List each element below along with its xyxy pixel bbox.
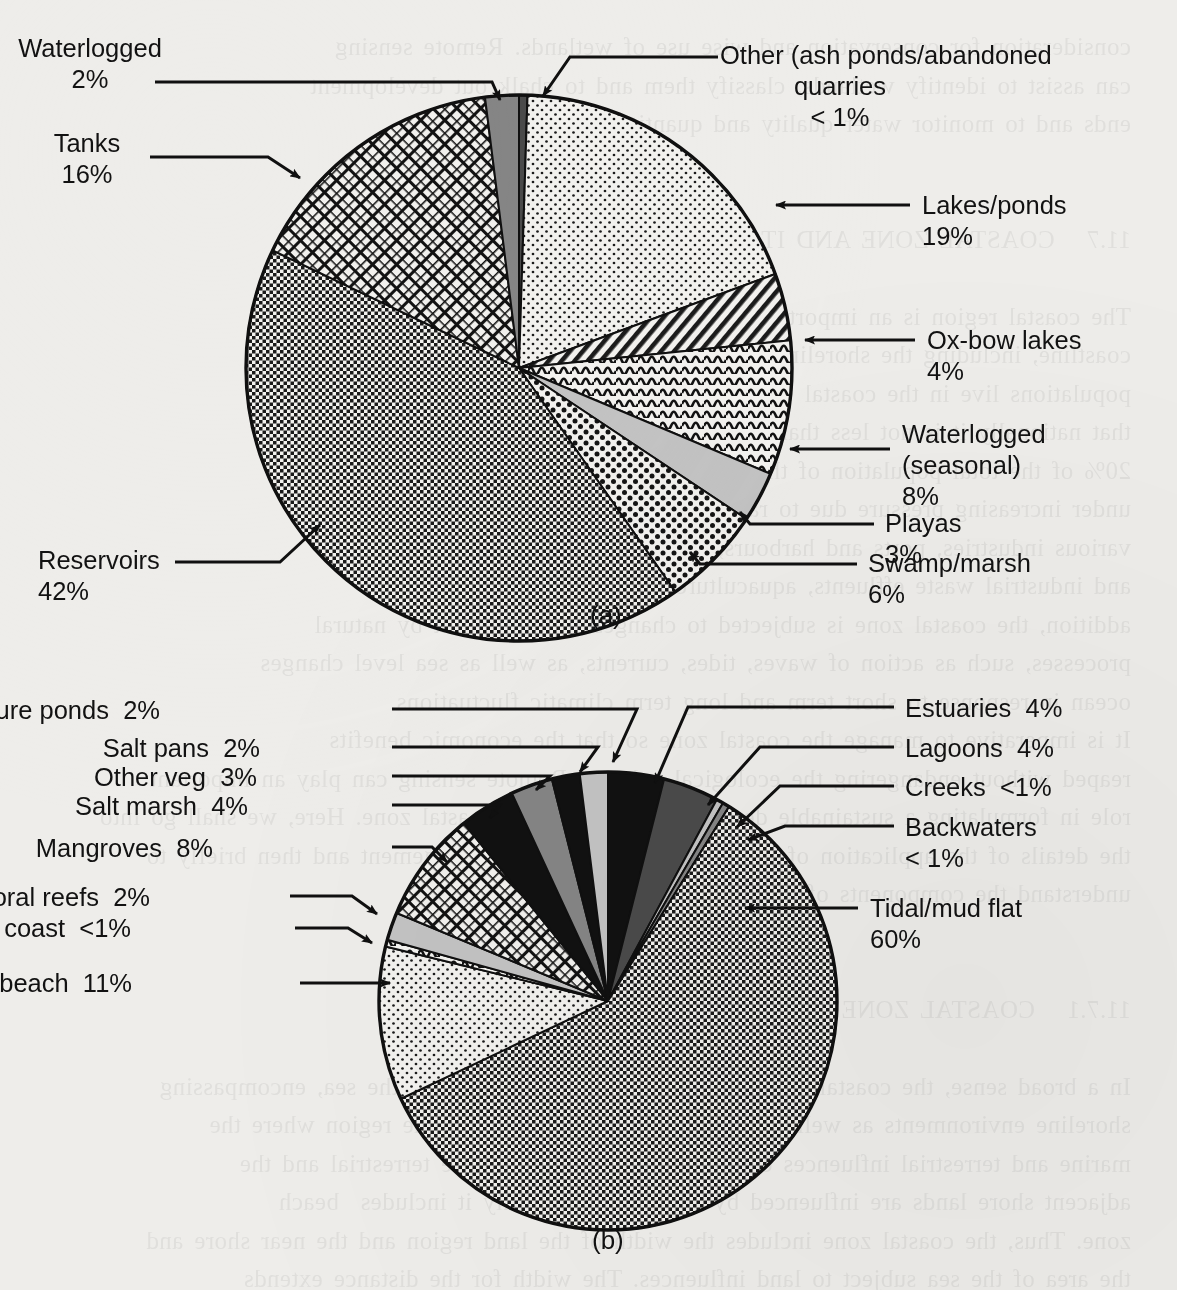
slice-label-salt-pans: Salt pans 2% [103,733,260,764]
chart-a-slices [246,95,792,641]
label-line: 19% [922,221,1067,252]
slice-label-ox-bow-lakes: Ox-bow lakes4% [927,325,1081,387]
label-line: Coral reefs 2% [0,882,150,913]
label-leader-line [740,512,874,524]
label-line: 2% [0,64,210,95]
label-line: Creeks <1% [905,772,1052,803]
label-leader-line [290,896,377,914]
label-line: < 1% [905,843,1037,874]
label-line: quarries [720,71,960,102]
figure-page: consideration for conservation and wise … [0,0,1177,1290]
panel-tag-a: (a) [590,600,622,631]
slice-label-tidal-mud-flat: Tidal/mud flat60% [870,893,1022,955]
slice-label-sand-beach: Sand/beach 11% [0,968,132,999]
label-line: < 1% [720,102,960,133]
slice-label-aquaculture-ponds: Aquaculture ponds 2% [0,695,160,726]
slice-label-reservoirs: Reservoirs42% [38,545,160,607]
label-line: (seasonal) [902,450,1046,481]
slice-label-salt-marsh: Salt marsh 4% [75,791,248,822]
label-line: Estuaries 4% [905,693,1062,724]
slice-label-swamp-marsh: Swamp/marsh6% [868,548,1031,610]
label-line: Tanks [0,128,207,159]
label-line: Salt pans 2% [103,733,260,764]
label-line: Playas [885,508,962,539]
label-line: Waterlogged [0,33,210,64]
slice-label-creeks: Creeks <1% [905,772,1052,803]
label-line: Backwaters [905,812,1037,843]
label-line: Mangroves 8% [36,833,213,864]
label-line: Aquaculture ponds 2% [0,695,160,726]
chart-b-slices [379,772,837,1230]
label-line: 42% [38,576,160,607]
label-line: Swamp/marsh [868,548,1031,579]
label-line: 6% [868,579,1031,610]
label-leader-line [543,57,718,96]
label-line: Reservoirs [38,545,160,576]
label-line: 60% [870,924,1022,955]
slice-label-lakes-ponds: Lakes/ponds19% [922,190,1067,252]
label-line: Other veg 3% [94,762,257,793]
label-line: 16% [0,159,207,190]
label-line: Lagoons 4% [905,733,1054,764]
slice-label-backwaters: Backwaters< 1% [905,812,1037,874]
label-line: Salt marsh 4% [75,791,248,822]
slice-label-other-ash-ponds: Other (ash ponds/abandonedquarries< 1% [720,40,960,133]
slice-label-other-veg: Other veg 3% [94,762,257,793]
label-line: Sand/beach 11% [0,968,132,999]
slice-label-rocky-coast: Rocky coast <1% [0,913,131,944]
label-leader-line [737,786,894,827]
label-line: Ox-bow lakes [927,325,1081,356]
slice-label-waterlogged: Waterlogged2% [0,33,210,95]
label-line: Lakes/ponds [922,190,1067,221]
slice-label-lagoons: Lagoons 4% [905,733,1054,764]
slice-label-mangroves: Mangroves 8% [36,833,213,864]
panel-tag-b: (b) [592,1225,624,1256]
label-line: 4% [927,356,1081,387]
label-leader-line [392,709,637,762]
label-leader-line [655,707,894,783]
label-leader-line [392,747,598,772]
slice-label-estuaries: Estuaries 4% [905,693,1062,724]
label-line: Tidal/mud flat [870,893,1022,924]
label-line: Other (ash ponds/abandoned [720,40,960,71]
label-leader-line [295,928,372,943]
slice-label-tanks: Tanks16% [0,128,207,190]
slice-label-waterlogged-seasonal: Waterlogged(seasonal)8% [902,419,1046,512]
label-line: Rocky coast <1% [0,913,131,944]
slice-label-coral-reefs: Coral reefs 2% [0,882,150,913]
label-line: Waterlogged [902,419,1046,450]
label-leader-line [708,747,894,805]
